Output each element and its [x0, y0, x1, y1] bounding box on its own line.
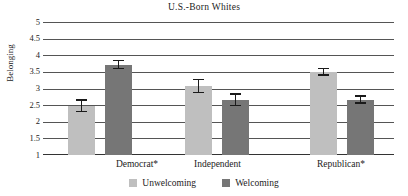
x-axis-label-republican: Republican*	[281, 159, 401, 169]
bar-unwelcoming-republican[interactable]	[310, 72, 337, 155]
gridline	[43, 89, 394, 90]
chart-legend: UnwelcomingWelcoming	[0, 178, 408, 188]
bar-unwelcoming-independent[interactable]	[185, 86, 212, 155]
gridline	[43, 122, 394, 123]
error-bar-cap-upper	[355, 95, 366, 97]
legend-item-welcoming[interactable]: Welcoming	[222, 178, 279, 188]
gridline	[43, 55, 394, 56]
y-axis-tick-label: 5	[4, 17, 40, 27]
bar-welcoming-independent[interactable]	[222, 100, 249, 155]
x-axis-category-labels: Democrat*IndependentRepublican*	[43, 159, 394, 175]
bar-welcoming-republican[interactable]	[347, 100, 374, 155]
chart-container: U.S.-Born Whites Belonging 54.543.532.52…	[0, 0, 408, 196]
legend-swatch-icon	[129, 179, 137, 187]
x-axis-label-independent: Independent	[158, 159, 278, 169]
gridline	[43, 22, 394, 23]
y-axis-tick-label: 2.5	[4, 100, 40, 110]
legend-swatch-icon	[222, 179, 230, 187]
gridline	[43, 138, 394, 139]
y-axis-tick-label: 1.5	[4, 133, 40, 143]
y-axis-tick-label: 3.5	[4, 66, 40, 76]
error-bar-cap-upper	[230, 93, 241, 95]
y-axis-tick-label: 4.5	[4, 33, 40, 43]
error-bar-cap-upper	[193, 79, 204, 81]
y-axis-tick-label: 3	[4, 83, 40, 93]
gridline	[43, 39, 394, 40]
chart-title: U.S.-Born Whites	[0, 2, 408, 12]
x-axis-line	[43, 154, 394, 155]
gridline	[43, 105, 394, 106]
y-axis-tick-label: 4	[4, 50, 40, 60]
error-bar-cap-upper	[76, 99, 87, 101]
y-axis-tick-label: 1	[4, 150, 40, 160]
gridline	[43, 72, 394, 73]
y-axis-tick-label: 2	[4, 116, 40, 126]
legend-label: Unwelcoming	[142, 178, 196, 188]
y-axis-tick-labels: 54.543.532.521.51	[0, 22, 40, 155]
error-bar-cap-upper	[318, 68, 329, 70]
legend-label: Welcoming	[235, 178, 279, 188]
bar-welcoming-democrat[interactable]	[105, 65, 132, 155]
plot-area	[43, 22, 394, 155]
error-bar-cap-upper	[113, 60, 124, 62]
legend-item-unwelcoming[interactable]: Unwelcoming	[129, 178, 196, 188]
bar-unwelcoming-democrat[interactable]	[68, 106, 95, 155]
